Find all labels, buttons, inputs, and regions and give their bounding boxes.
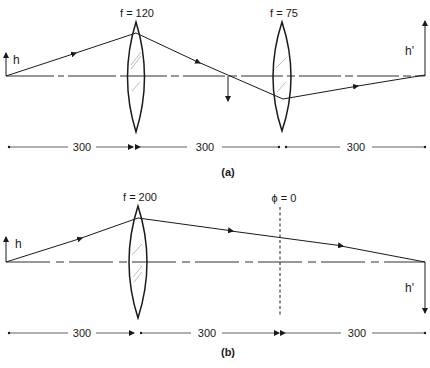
caption-b: (b) [221,346,235,358]
distance-label-a-3: 300 [347,141,365,153]
phase-plane-label: ϕ = 0 [272,192,297,204]
distance-label-b-2: 300 [198,327,216,339]
lens-2-focal-label: f = 75 [270,7,298,19]
object-label-b: h [15,237,22,251]
lens-1-a [128,22,145,132]
distance-label-b-1: 300 [73,327,91,339]
optics-figure: h f = 120 [0,0,430,368]
ray-a [6,33,425,99]
object-label-a: h [13,53,20,67]
diagram-b: h f = 200 ϕ = 0 h' [6,191,425,358]
diagram-a: h f = 120 [6,7,425,178]
distance-label-b-3: 300 [348,327,366,339]
lens-focal-label-b: f = 200 [123,191,157,203]
image-label-b: h' [405,281,414,295]
caption-a: (a) [221,166,235,178]
lens-2-a [273,22,291,131]
lens-1-focal-label: f = 120 [120,7,154,19]
image-label-a: h' [405,44,414,58]
distance-label-a-1: 300 [73,141,91,153]
ray-b [6,218,425,262]
distance-label-a-2: 300 [196,141,214,153]
